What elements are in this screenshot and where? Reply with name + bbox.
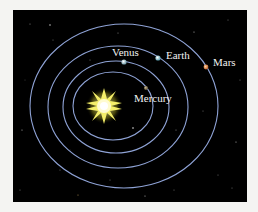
sun <box>86 88 122 124</box>
solar-system-diagram: MercuryVenusEarthMars <box>0 0 258 212</box>
planet-mars <box>204 65 209 70</box>
label-mercury: Mercury <box>134 92 172 104</box>
label-venus: Venus <box>112 46 139 58</box>
planet-venus <box>121 59 126 64</box>
planet-earth <box>155 55 160 60</box>
label-earth: Earth <box>166 49 190 61</box>
planet-mercury <box>144 86 148 90</box>
label-mars: Mars <box>213 56 236 68</box>
